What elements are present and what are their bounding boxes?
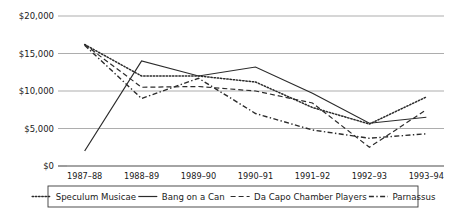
x-axis-tick-label: 1992–93: [352, 171, 387, 181]
x-axis-tick-label: 1993–94: [409, 171, 444, 181]
x-axis-tick-label: 1987–88: [67, 171, 102, 181]
line-chart: $0$5,000$10,000$15,000$20,000 1987–88198…: [0, 0, 453, 216]
x-axis-tick-label: 1989–90: [181, 171, 216, 181]
y-axis-tick-label: $20,000: [19, 11, 54, 21]
x-axis-tick-label: 1988–89: [124, 171, 159, 181]
y-axis-tick-label: $10,000: [19, 86, 54, 96]
series-group: [85, 45, 427, 152]
y-axis-tick-label: $5,000: [24, 124, 54, 134]
y-axis-tick-label: $0: [43, 161, 54, 171]
legend-item-label[interactable]: Speculum Musicae: [56, 192, 136, 202]
y-axis-tick-label: $15,000: [19, 49, 54, 59]
legend-item-label[interactable]: Bang on a Can: [162, 192, 225, 202]
series-line-da-capo-chamber-players: [85, 45, 427, 148]
series-line-speculum-musicae: [85, 45, 427, 125]
legend-item-label[interactable]: Da Capo Chamber Players: [254, 192, 367, 202]
chart-container: $0$5,000$10,000$15,000$20,000 1987–88198…: [0, 0, 453, 216]
x-axis-tick-label: 1991–92: [295, 171, 330, 181]
x-axis-tick-label: 1990–91: [238, 171, 273, 181]
series-line-parnassus: [85, 45, 427, 138]
y-axis-labels-group: $0$5,000$10,000$15,000$20,000: [19, 11, 54, 171]
legend: Speculum MusicaeBang on a CanDa Capo Cha…: [32, 186, 436, 207]
legend-item-label[interactable]: Parnassus: [392, 192, 436, 202]
x-axis-labels-group: 1987–881988–891989–901990–911991–921992–…: [67, 171, 444, 181]
